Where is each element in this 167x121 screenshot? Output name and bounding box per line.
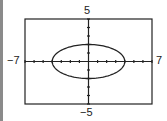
graph-window [0,0,167,121]
axes [25,19,152,104]
